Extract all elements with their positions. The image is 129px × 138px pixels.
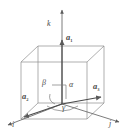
unit-cell-figure: k i j a1 a2 a3 α β γ xyxy=(0,0,129,138)
axis-label-j: j xyxy=(109,120,111,128)
cube-front-face xyxy=(21,62,87,119)
angle-label-beta: β xyxy=(42,79,46,87)
vector-label-a2-subscript: 2 xyxy=(26,97,28,102)
vector-label-a1: a1 xyxy=(66,33,73,43)
angle-label-alpha: α xyxy=(69,81,73,89)
vector-label-a3: a3 xyxy=(93,82,100,92)
vector-label-a3-subscript: 3 xyxy=(97,87,99,92)
right-angle-marker-alpha xyxy=(52,85,66,99)
cube-edge-tr xyxy=(87,46,104,62)
unit-cell-svg xyxy=(0,0,129,138)
vector-label-a2: a2 xyxy=(22,92,29,102)
angle-label-gamma: γ xyxy=(62,104,65,112)
axis-label-i: i xyxy=(12,121,14,129)
vector-label-a1-subscript: 1 xyxy=(70,38,72,43)
angle-arc-beta xyxy=(50,94,55,104)
axis-label-k: k xyxy=(47,20,51,28)
cube-edge-tl xyxy=(21,46,38,62)
cube-back-face xyxy=(38,46,104,103)
